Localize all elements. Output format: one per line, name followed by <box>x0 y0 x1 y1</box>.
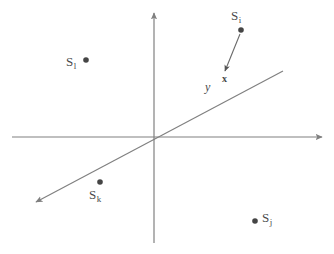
diagram-svg <box>0 0 334 254</box>
data-point-sj <box>252 218 258 224</box>
vector-label-y: y <box>205 81 210 93</box>
projection-arrow <box>225 34 240 71</box>
point-label-si-subscript: i <box>238 15 241 25</box>
data-point-si <box>238 27 244 33</box>
point-label-sj-subscript: j <box>269 217 272 227</box>
point-label-sk-subscript: k <box>96 194 101 204</box>
point-label-sl-subscript: l <box>73 61 76 71</box>
point-label-sj: Sj <box>262 211 272 227</box>
point-label-sl: Sl <box>66 55 76 71</box>
figure-canvas: Si Sl Sk Sj x y <box>0 0 334 254</box>
data-point-sk <box>97 179 103 185</box>
vector-label-x: x <box>222 74 227 84</box>
point-label-si: Si <box>231 9 241 25</box>
point-label-sk: Sk <box>89 188 101 204</box>
data-point-sl <box>83 57 89 63</box>
